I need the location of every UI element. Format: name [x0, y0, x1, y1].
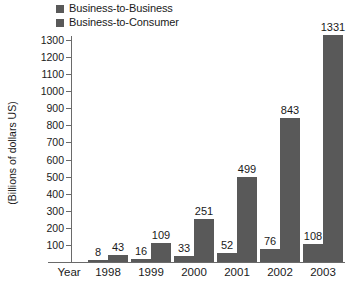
legend-item: Business-to-Consumer [56, 16, 256, 29]
y-axis-tick-label: 200 [28, 223, 64, 233]
y-axis-tick-label-text: 1100 [30, 69, 64, 79]
y-axis-tick-label: 900 [28, 103, 64, 113]
y-axis-tick-label: 1100 [28, 69, 64, 79]
y-axis-tick-label-text: 1200 [30, 52, 64, 62]
y-axis-tick-label: 1000 [28, 86, 64, 96]
bar [260, 249, 280, 262]
legend-item-label: Business-to-Business [69, 3, 173, 14]
y-axis-tick-label: 500 [28, 172, 64, 182]
bar [237, 177, 257, 262]
chart-legend: Business-to-Business Business-to-Consume… [56, 2, 256, 30]
legend-swatch-icon [56, 5, 64, 13]
y-axis-tick-label-text: 800 [30, 120, 64, 130]
y-axis-tick-label: 400 [28, 189, 64, 199]
y-axis-tick-label-text: 400 [30, 189, 64, 199]
y-axis-tick-label-text: 1300 [30, 35, 64, 45]
legend-item: Business-to-Business [56, 2, 256, 15]
y-axis-tick-label: 100 [28, 240, 64, 250]
y-axis-tick-label-text: 700 [30, 137, 64, 147]
y-axis-tick-label: 800 [28, 120, 64, 130]
y-axis-tick-label-text: 1000 [30, 86, 64, 96]
y-axis-tick-label-text: 500 [30, 172, 64, 182]
y-axis-tick-label-text: 300 [30, 206, 64, 216]
y-axis-tick-label: 300 [28, 206, 64, 216]
y-axis-tick-label: 700 [28, 137, 64, 147]
y-axis-tick-label-text: 100 [30, 240, 64, 250]
bar-value-label: 109 [143, 230, 179, 241]
bar-value-label: 499 [229, 164, 265, 175]
bar [88, 260, 108, 262]
bar [303, 244, 323, 262]
bar-value-label: 251 [186, 206, 222, 217]
legend-item-label: Business-to-Consumer [69, 17, 179, 28]
bar [217, 253, 237, 262]
plot-area: 843161093325152499768431081331 [72, 36, 344, 262]
bar [131, 259, 151, 262]
bar [174, 256, 194, 262]
x-axis-line [48, 262, 345, 263]
legend-swatch-icon [56, 19, 64, 27]
bar-chart: Business-to-Business Business-to-Consume… [0, 0, 351, 284]
x-axis-category-label: 2003 [297, 266, 349, 278]
y-axis-title: (Billions of dollars US) [6, 83, 18, 223]
bar-value-label: 843 [272, 105, 308, 116]
y-axis-tick-label: 1200 [28, 52, 64, 62]
y-axis-tick-label: 1300 [28, 35, 64, 45]
y-axis-tick-label-text: 900 [30, 103, 64, 113]
bar-value-label: 1331 [315, 22, 351, 33]
bar [323, 35, 343, 262]
y-axis-tick-label-text: 600 [30, 155, 64, 165]
y-axis-tick-label: 600 [28, 155, 64, 165]
y-axis-tick-label-text: 200 [30, 223, 64, 233]
